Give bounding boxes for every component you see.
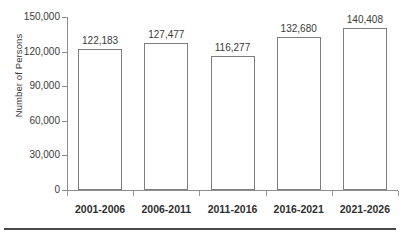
y-axis-line — [67, 17, 68, 191]
footer-rule — [4, 228, 396, 230]
bar-value-label: 127,477 — [136, 30, 196, 40]
bar-value-label: 140,408 — [335, 15, 395, 25]
y-tick-label: 150,000 — [16, 12, 60, 22]
x-category-label: 2006-2011 — [131, 203, 201, 215]
x-tick-mark — [266, 191, 267, 196]
bar — [277, 37, 321, 190]
y-tick-label: 60,000 — [16, 116, 60, 126]
y-tick-label: 0 — [16, 185, 60, 195]
y-tick-label: 90,000 — [16, 81, 60, 91]
x-tick-mark — [398, 191, 399, 196]
x-tick-mark — [332, 191, 333, 196]
bar-chart: Number of Persons 030,00060,00090,000120… — [0, 0, 403, 236]
y-tick-label: 30,000 — [16, 150, 60, 160]
x-category-label: 2001-2006 — [65, 203, 135, 215]
bar-value-label: 122,183 — [70, 36, 130, 46]
x-tick-mark — [133, 191, 134, 196]
bar — [211, 56, 255, 190]
x-tick-mark — [67, 191, 68, 196]
x-category-label: 2016-2021 — [264, 203, 334, 215]
bar — [144, 43, 188, 190]
y-tick-label: 120,000 — [16, 47, 60, 57]
x-category-label: 2011-2016 — [198, 203, 268, 215]
x-axis-line — [67, 190, 398, 191]
bar-value-label: 132,680 — [269, 24, 329, 34]
x-category-label: 2021-2026 — [330, 203, 400, 215]
bar — [343, 28, 387, 190]
bar — [78, 49, 122, 190]
bar-value-label: 116,277 — [203, 43, 263, 53]
x-tick-mark — [199, 191, 200, 196]
